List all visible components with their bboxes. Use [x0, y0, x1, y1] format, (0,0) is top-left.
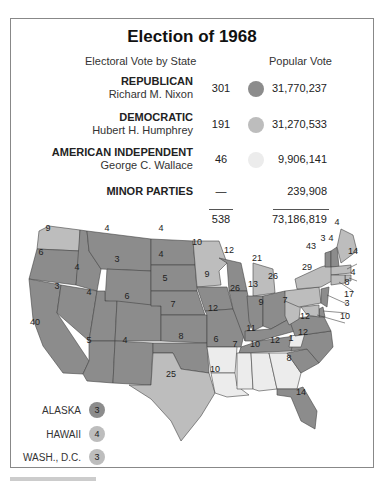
state-nm — [113, 341, 153, 385]
us-electoral-map — [11, 19, 375, 469]
state-ri — [345, 275, 351, 281]
state-mi — [253, 263, 275, 296]
legend-hawaii-label: HAWAII — [11, 429, 81, 440]
state-me — [337, 229, 357, 263]
state-wy — [105, 269, 151, 306]
state-wa — [37, 226, 80, 251]
state-md — [301, 305, 319, 317]
state-vt — [325, 251, 331, 267]
legend-hawaii-badge: 4 — [89, 426, 105, 442]
state-ms — [237, 353, 253, 389]
state-ar — [207, 347, 237, 373]
legend-dc-label: WASH., D.C. — [11, 452, 81, 463]
state-ma — [331, 265, 351, 275]
legend-alaska-badge: 3 — [89, 402, 105, 418]
state-nj — [321, 287, 329, 307]
election-figure: Election of 1968 Electoral Vote by State… — [10, 18, 374, 468]
state-ks — [161, 315, 207, 343]
legend-alaska-label: ALASKA — [11, 405, 81, 416]
state-ct — [331, 275, 345, 285]
state-mn — [193, 241, 227, 287]
state-co — [115, 301, 161, 341]
caption-placeholder-bar — [10, 477, 96, 481]
legend-dc-badge: 3 — [89, 449, 105, 465]
state-de — [319, 307, 325, 317]
state-sd — [151, 265, 197, 291]
state-nd — [151, 239, 195, 265]
state-fl — [277, 387, 317, 429]
state-or — [29, 249, 80, 285]
